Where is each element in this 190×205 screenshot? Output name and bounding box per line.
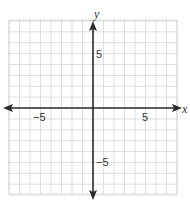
x-tick-label-neg5: −5 (33, 111, 46, 123)
x-axis-label: x (181, 102, 188, 116)
x-tick-label-5: 5 (142, 111, 148, 123)
y-tick-label-neg5: −5 (96, 156, 109, 168)
y-tick-label-5: 5 (96, 48, 102, 60)
y-axis-label: y (93, 7, 100, 21)
coordinate-plane: x y −5 5 5 −5 (0, 0, 190, 205)
